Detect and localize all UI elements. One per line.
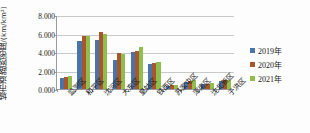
y-axis-title-main: 城市道路网密度 [0,42,9,99]
y-axis-title: 城市道路网密度/(km/km²) [0,0,30,105]
legend-swatch [250,48,255,53]
legend-item[interactable]: 2021年 [250,73,282,84]
bar-chart-figure: 城市道路网密度/(km/km²) 0.0002.0004.0006.0008.0… [0,0,310,133]
legend-label: 2020年 [258,59,282,70]
legend-swatch [250,62,255,67]
legend-item[interactable]: 2019年 [250,45,282,56]
y-tick-label: 4.000 [38,49,55,58]
x-axis-tick-labels: 监测区和平区沈河区大东区皇姑区铁西区苏家屯区浑南区沈北新区于洪区 [56,90,234,133]
y-tick-label: 8.000 [38,12,55,21]
bar-group [57,16,75,89]
y-tick-label: 6.000 [38,30,55,39]
y-axis-title-unit: /(km/km²) [0,6,8,43]
legend-swatch [250,76,255,81]
legend-label: 2019年 [258,45,282,56]
legend: 2019年2020年2021年 [250,45,282,84]
y-tick-label: 2.000 [38,67,55,76]
y-tick-label: 0.000 [38,86,55,95]
legend-label: 2021年 [258,73,282,84]
y-axis-tick-labels: 0.0002.0004.0006.0008.000 [30,12,55,94]
legend-item[interactable]: 2020年 [250,59,282,70]
